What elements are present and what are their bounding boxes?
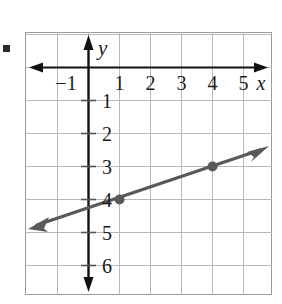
y-tick-label-3: 3 [102, 156, 112, 178]
x-tick-label-2: 2 [146, 72, 156, 94]
x-tick-label-3: 3 [177, 72, 187, 94]
x-axis-label: x [256, 72, 266, 94]
y-tick-label-5: 5 [102, 222, 112, 244]
graph-svg: −1 1 2 3 4 5 1 2 3 4 5 6 y x [25, 32, 272, 295]
figure-container: −1 1 2 3 4 5 1 2 3 4 5 6 y x [0, 0, 282, 304]
x-tick-label-5: 5 [239, 72, 249, 94]
y-tick-label-4: 4 [102, 189, 112, 211]
y-axis-label: y [96, 36, 108, 60]
data-point-2 [208, 162, 218, 172]
data-point-1 [115, 195, 125, 205]
bullet-marker [3, 45, 10, 52]
y-tick-label-6: 6 [102, 255, 112, 277]
y-tick-label-1: 1 [102, 90, 112, 112]
y-tick-label-2: 2 [102, 123, 112, 145]
x-tick-label-4: 4 [208, 72, 218, 94]
x-tick-label-1: 1 [115, 72, 125, 94]
coordinate-plane: −1 1 2 3 4 5 1 2 3 4 5 6 y x [25, 32, 272, 295]
x-tick-label-neg1: −1 [55, 72, 76, 94]
